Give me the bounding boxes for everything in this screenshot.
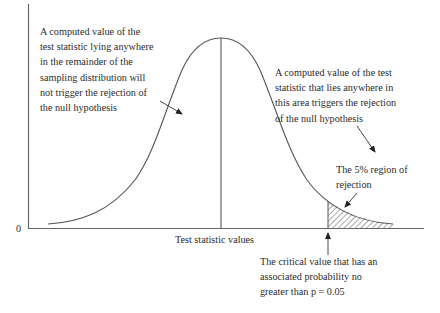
critical-value-annotation: The critical value that has an associate… [260, 254, 377, 300]
annotation-line: not trigger the rejection of [40, 85, 153, 100]
rejection-area-arrow [357, 126, 375, 152]
annotation-line: greater than p = 0.05 [260, 284, 377, 299]
annotation-line: The 5% region of [336, 162, 408, 177]
y-origin-label: 0 [16, 221, 21, 236]
rejection-region-hatch [328, 201, 393, 228]
annotation-line: of the null hypothesis [275, 111, 396, 126]
annotation-line: rejection [336, 177, 408, 192]
annotation-line: the null hypothesis [40, 100, 153, 115]
annotation-line: associated probability no [260, 269, 377, 284]
x-axis-label: Test statistic values [175, 232, 254, 247]
annotation-line: The critical value that has an [260, 254, 377, 269]
rejection-region-arrow [345, 193, 357, 207]
annotation-line: A computed value of the [40, 24, 153, 39]
annotation-line: test statistic lying anywhere [40, 39, 153, 54]
annotation-line: sampling distribution will [40, 70, 153, 85]
acceptance-arrow [160, 101, 182, 114]
rejection-region-annotation: The 5% region of rejection [336, 162, 408, 192]
annotation-line: this area triggers the rejection [275, 95, 396, 110]
annotation-line: A computed value of the test [275, 65, 396, 80]
annotation-line: statistic that lies anywhere in [275, 80, 396, 95]
rejection-area-annotation: A computed value of the test statistic t… [275, 65, 396, 126]
acceptance-region-annotation: A computed value of the test statistic l… [40, 24, 153, 115]
annotation-line: in the remainder of the [40, 54, 153, 69]
